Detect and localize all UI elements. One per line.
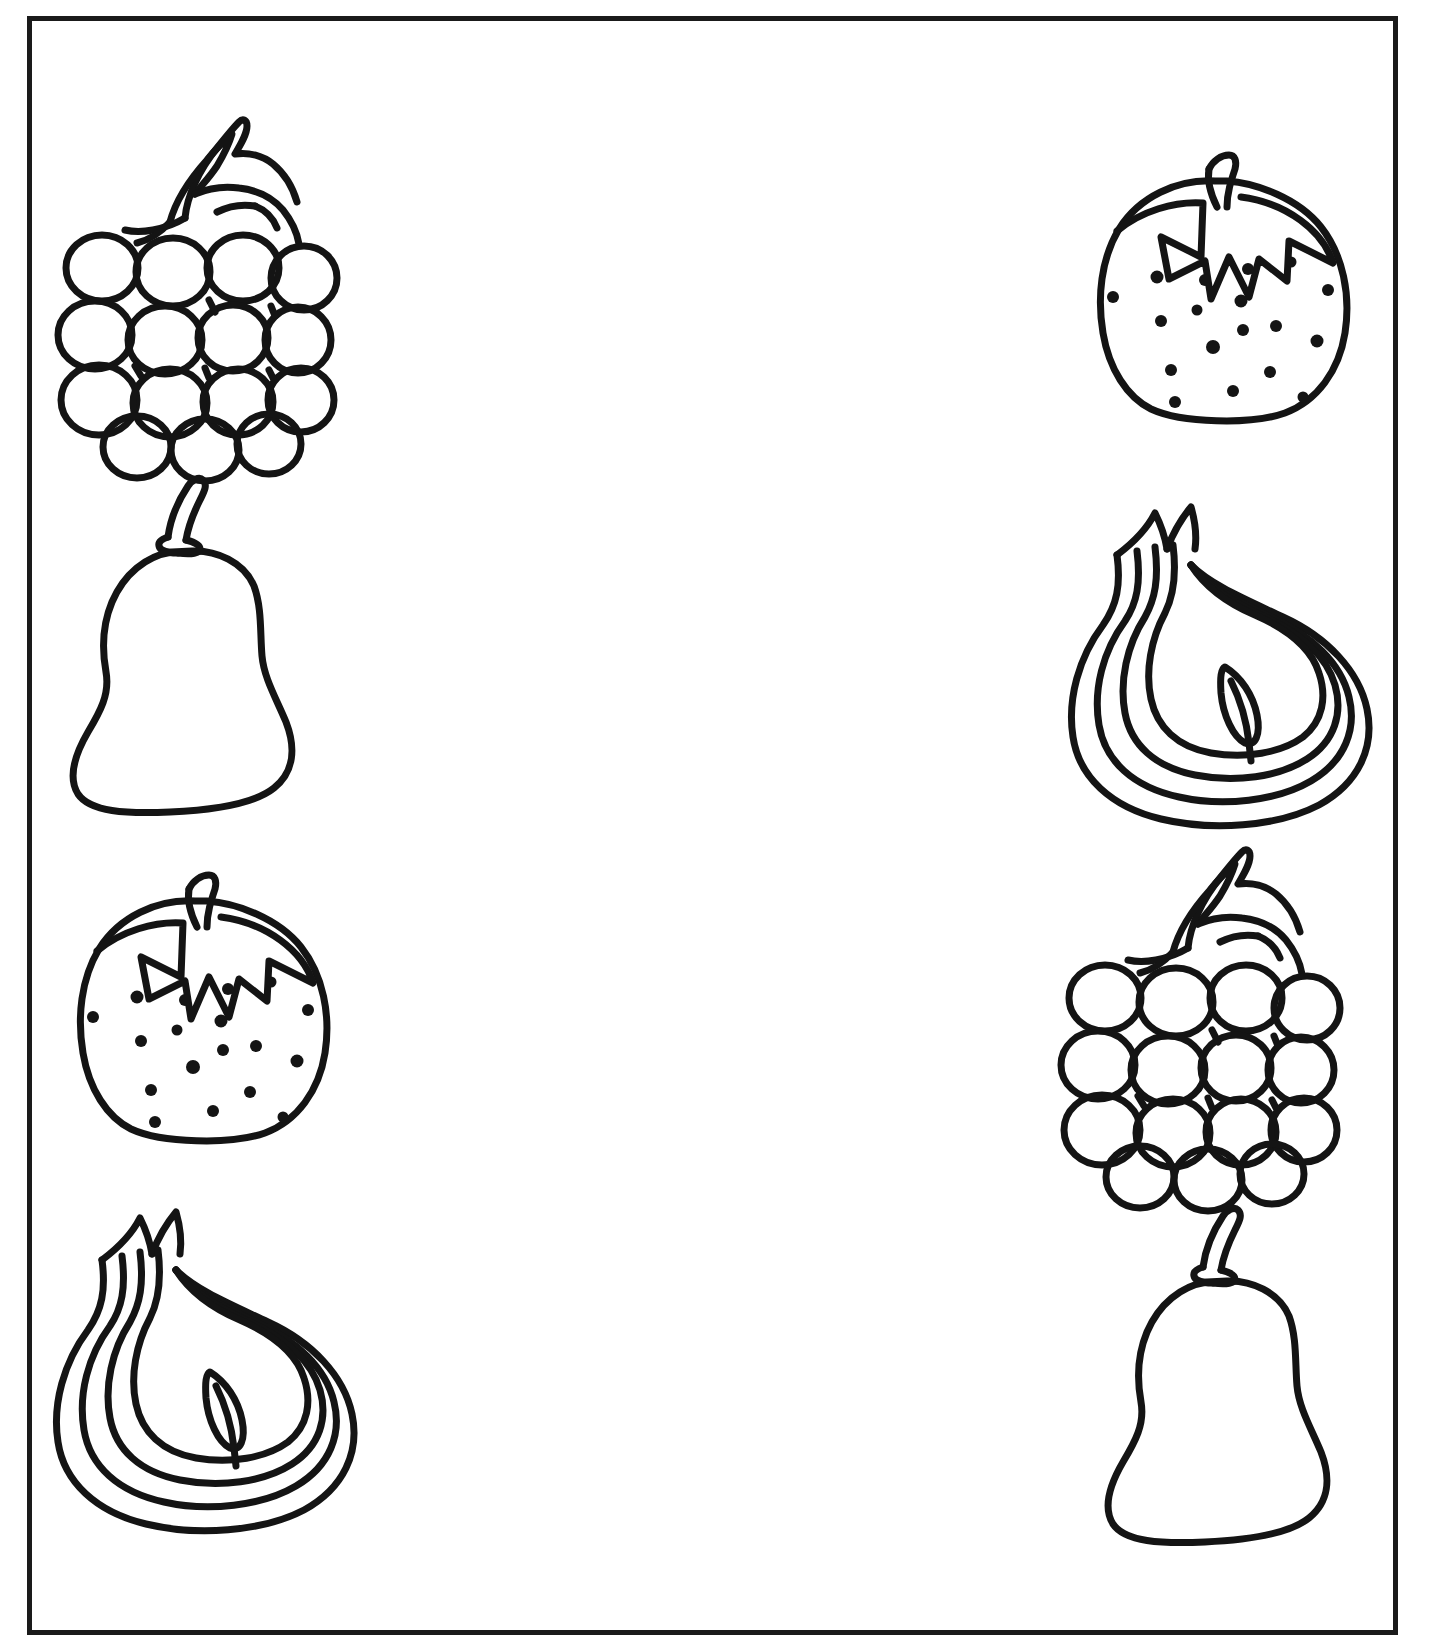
pear-icon: [1085, 1190, 1360, 1540]
grapes-icon: [57, 100, 337, 455]
onion-icon: [1055, 485, 1380, 835]
grapes-icon: [1060, 830, 1340, 1185]
right-item-grapes[interactable]: [1060, 830, 1340, 1185]
strawberry-icon: [1065, 125, 1375, 435]
right-item-strawberry[interactable]: [1065, 125, 1375, 435]
left-item-pear[interactable]: [50, 460, 325, 810]
strawberry-icon: [45, 845, 355, 1155]
left-item-grapes[interactable]: [57, 100, 337, 455]
onion-icon: [40, 1190, 365, 1540]
pear-icon: [50, 460, 325, 810]
page-border-frame: [27, 16, 1398, 1635]
worksheet-page: [0, 0, 1438, 1646]
right-item-pear[interactable]: [1085, 1190, 1360, 1540]
left-item-onion[interactable]: [40, 1190, 365, 1540]
left-item-strawberry[interactable]: [45, 845, 355, 1155]
right-item-onion[interactable]: [1055, 485, 1380, 835]
